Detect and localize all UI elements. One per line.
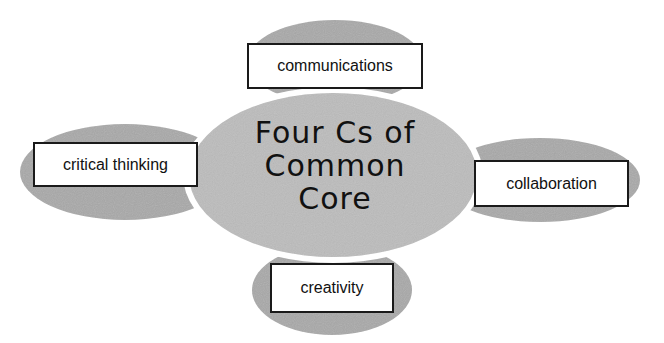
collaboration-label: collaboration: [506, 175, 597, 193]
communications-box: communications: [247, 43, 423, 89]
center-title: Four Cs of Common Core: [210, 116, 460, 215]
center-title-line-3: Core: [210, 182, 460, 215]
critical-thinking-box: critical thinking: [33, 142, 198, 187]
four-cs-diagram: Four Cs of Common Core communications cr…: [0, 0, 664, 343]
creativity-label: creativity: [300, 279, 363, 297]
communications-label: communications: [277, 57, 393, 75]
center-title-line-1: Four Cs of: [210, 116, 460, 149]
center-title-line-2: Common: [210, 149, 460, 182]
creativity-box: creativity: [270, 263, 394, 313]
critical-thinking-label: critical thinking: [63, 156, 168, 174]
collaboration-box: collaboration: [474, 160, 629, 207]
